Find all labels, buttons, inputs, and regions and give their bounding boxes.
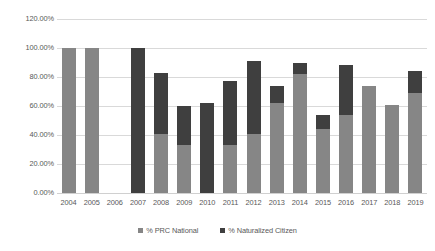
bar-series-container [57,19,427,193]
bar-slot-2015[interactable] [311,19,334,193]
stacked-bar-chart: 0.00%20.00%40.00%60.00%80.00%100.00%120.… [0,0,435,251]
y-axis-tick-label: 120.00% [0,15,54,23]
bar-stack[interactable] [270,86,284,193]
bar-slot-2010[interactable] [196,19,219,193]
y-axis-tick-label: 20.00% [0,160,54,168]
bar-segment-prc-national[interactable] [339,115,353,193]
bar-slot-2004[interactable] [57,19,80,193]
bar-segment-prc-national[interactable] [154,134,168,193]
bar-slot-2009[interactable] [173,19,196,193]
bar-segment-naturalized-citizen[interactable] [270,86,284,103]
bar-slot-2014[interactable] [288,19,311,193]
bar-segment-naturalized-citizen[interactable] [223,81,237,145]
legend-label: % PRC National [146,226,198,235]
bar-segment-prc-national[interactable] [385,105,399,193]
legend-item[interactable]: % PRC National [138,226,198,235]
x-axis-tick-label-2006: 2006 [103,196,126,210]
chart-legend: % PRC National% Naturalized Citizen [0,226,435,235]
bar-stack[interactable] [200,103,214,193]
x-axis-tick-label-2005: 2005 [80,196,103,210]
bar-stack[interactable] [247,61,261,193]
x-axis-tick-label-2008: 2008 [150,196,173,210]
bar-segment-naturalized-citizen[interactable] [408,71,422,93]
legend-item[interactable]: % Naturalized Citizen [220,226,297,235]
bar-stack[interactable] [293,63,307,193]
bar-segment-prc-national[interactable] [247,134,261,193]
x-axis-tick-label-2007: 2007 [126,196,149,210]
bar-slot-2005[interactable] [80,19,103,193]
x-axis-tick-label-2013: 2013 [265,196,288,210]
bar-stack[interactable] [408,71,422,193]
legend-swatch-icon [220,228,225,233]
bar-segment-prc-national[interactable] [293,74,307,193]
x-axis-tick-label-2009: 2009 [173,196,196,210]
bar-stack[interactable] [385,105,399,193]
x-axis-tick-label-2014: 2014 [288,196,311,210]
x-axis-tick-label-2018: 2018 [381,196,404,210]
bar-stack[interactable] [223,81,237,193]
bar-stack[interactable] [85,48,99,193]
y-axis-tick-label: 60.00% [0,102,54,110]
bar-segment-naturalized-citizen[interactable] [177,106,191,145]
bar-segment-naturalized-citizen[interactable] [293,63,307,75]
bar-stack[interactable] [62,48,76,193]
bar-stack[interactable] [316,115,330,193]
bar-segment-prc-national[interactable] [362,86,376,193]
bar-segment-prc-national[interactable] [177,145,191,193]
legend-label: % Naturalized Citizen [228,226,297,235]
plot-area [57,19,427,193]
legend-swatch-icon [138,228,143,233]
bar-slot-2012[interactable] [242,19,265,193]
bar-slot-2016[interactable] [335,19,358,193]
bar-segment-naturalized-citizen[interactable] [200,103,214,193]
bar-segment-prc-national[interactable] [62,48,76,193]
x-axis-tick-label-2017: 2017 [358,196,381,210]
x-axis: 2004200520062007200820092010201120122013… [57,196,427,210]
bar-slot-2019[interactable] [404,19,427,193]
bar-segment-naturalized-citizen[interactable] [154,73,168,134]
bar-slot-2011[interactable] [219,19,242,193]
x-axis-tick-label-2016: 2016 [335,196,358,210]
bar-slot-2008[interactable] [150,19,173,193]
x-axis-tick-label-2010: 2010 [196,196,219,210]
bar-segment-prc-national[interactable] [270,103,284,193]
bar-segment-naturalized-citizen[interactable] [131,48,145,193]
bar-stack[interactable] [177,106,191,193]
y-axis-tick-label: 80.00% [0,73,54,81]
y-axis-tick-label: 0.00% [0,189,54,197]
gridline-000 [57,193,427,194]
bar-slot-2018[interactable] [381,19,404,193]
bar-segment-prc-national[interactable] [408,93,422,193]
bar-segment-prc-national[interactable] [85,48,99,193]
bar-stack[interactable] [154,73,168,193]
y-axis-tick-label: 100.00% [0,44,54,52]
bar-segment-naturalized-citizen[interactable] [247,61,261,134]
bar-segment-naturalized-citizen[interactable] [339,65,353,114]
x-axis-tick-label-2004: 2004 [57,196,80,210]
bar-stack[interactable] [339,65,353,193]
bar-slot-2007[interactable] [126,19,149,193]
x-axis-tick-label-2019: 2019 [404,196,427,210]
x-axis-tick-label-2012: 2012 [242,196,265,210]
y-axis-tick-label: 40.00% [0,131,54,139]
x-axis-tick-label-2015: 2015 [311,196,334,210]
x-axis-tick-label-2011: 2011 [219,196,242,210]
bar-segment-prc-national[interactable] [223,145,237,193]
bar-slot-2006[interactable] [103,19,126,193]
bar-segment-naturalized-citizen[interactable] [316,115,330,130]
bar-segment-prc-national[interactable] [316,129,330,193]
bar-slot-2017[interactable] [358,19,381,193]
bar-stack[interactable] [362,86,376,193]
bar-slot-2013[interactable] [265,19,288,193]
bar-stack[interactable] [131,48,145,193]
